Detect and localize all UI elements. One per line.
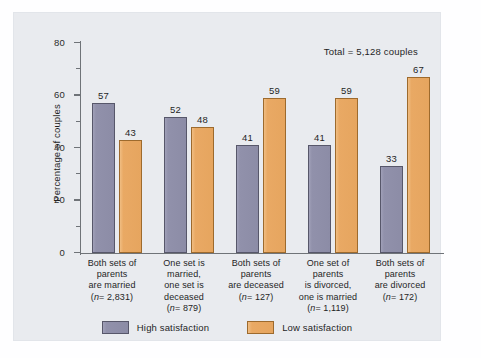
bar-low-satisfaction[interactable]: 48 [191, 127, 214, 253]
legend-swatch [247, 321, 274, 334]
y-axis-tick-major: 20 [74, 199, 80, 200]
x-axis-line [80, 253, 444, 254]
category-sample-size: (n= 172) [352, 292, 448, 303]
bar-value-label: 52 [170, 104, 181, 115]
bar-value-label: 59 [269, 85, 280, 96]
bar-low-satisfaction[interactable]: 59 [335, 98, 358, 253]
bar-value-label: 41 [314, 132, 325, 143]
bar-value-label: 48 [197, 114, 208, 125]
legend: High satisfactionLow satisfaction [14, 321, 440, 334]
y-axis-title-wrap: Percentage of couples [34, 68, 54, 238]
category-label-line: parents [352, 269, 448, 280]
bar-value-label: 41 [242, 132, 253, 143]
y-axis-tick-label: 0 [60, 246, 65, 257]
legend-label: Low satisfaction [282, 322, 352, 333]
bar-high-satisfaction[interactable]: 41 [236, 145, 259, 253]
category-sample-size: (n= 879) [136, 303, 232, 314]
bar-high-satisfaction[interactable]: 57 [92, 103, 115, 253]
y-axis-tick-label: 60 [54, 89, 65, 100]
y-axis-tick-minor [76, 173, 80, 174]
y-axis-title: Percentage of couples [51, 104, 62, 202]
category-sample-size: (n= 1,119) [280, 303, 376, 314]
chart-panel: Total = 5,128 couples Percentage of coup… [14, 13, 440, 340]
y-axis-tick-major: 0 [74, 252, 80, 253]
bar-value-label: 57 [98, 90, 109, 101]
y-axis-tick-label: 40 [54, 141, 65, 152]
category-label-line: are divorced [352, 280, 448, 291]
bar-group: 5743 [92, 43, 142, 253]
plot-area: 020406080 57435248415941593367 [80, 43, 440, 253]
bar-group: 4159 [308, 43, 358, 253]
bar-group: 4159 [236, 43, 286, 253]
bar-value-label: 67 [413, 64, 424, 75]
bar-group: 5248 [164, 43, 214, 253]
category-label-line: Both sets of [352, 258, 448, 269]
y-axis-tick-major: 80 [74, 42, 80, 43]
bar-low-satisfaction[interactable]: 59 [263, 98, 286, 253]
legend-label: High satisfaction [137, 322, 209, 333]
bar-high-satisfaction[interactable]: 52 [164, 117, 187, 254]
y-axis-tick-major: 40 [74, 147, 80, 148]
bar-low-satisfaction[interactable]: 43 [119, 140, 142, 253]
bar-value-label: 33 [386, 153, 397, 164]
bar-group: 3367 [380, 43, 430, 253]
x-axis-category-label: Both sets ofparentsare divorced(n= 172) [352, 258, 448, 303]
bar-high-satisfaction[interactable]: 41 [308, 145, 331, 253]
bar-value-label: 43 [125, 127, 136, 138]
y-axis-tick-label: 80 [54, 36, 65, 47]
y-axis-tick-minor [76, 121, 80, 122]
legend-item-high-satisfaction[interactable]: High satisfaction [102, 321, 209, 334]
y-axis-tick-minor [76, 226, 80, 227]
legend-swatch [102, 321, 129, 334]
y-axis-tick-minor [76, 68, 80, 69]
legend-item-low-satisfaction[interactable]: Low satisfaction [247, 321, 352, 334]
bar-high-satisfaction[interactable]: 33 [380, 166, 403, 253]
y-axis-tick-major: 60 [74, 94, 80, 95]
bar-low-satisfaction[interactable]: 67 [407, 77, 430, 253]
y-axis-tick-label: 20 [54, 194, 65, 205]
figure: Total = 5,128 couples Percentage of coup… [0, 0, 481, 358]
bar-value-label: 59 [341, 85, 352, 96]
